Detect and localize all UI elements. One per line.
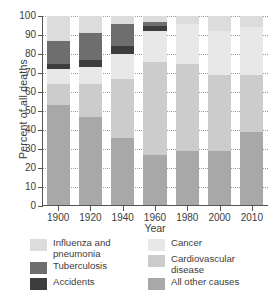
legend-label: All other causes [171, 277, 239, 288]
y-tick-label: 30 [6, 144, 36, 154]
legend-swatch [148, 255, 165, 267]
legend-swatch [148, 278, 165, 290]
legend-label: Cancer [171, 238, 202, 249]
legend-label: Tuberculosis [53, 261, 107, 272]
legend-item[interactable]: All other causes [148, 277, 268, 291]
y-tick-label: 20 [6, 163, 36, 173]
legend-item[interactable]: Accidents [30, 277, 148, 291]
legend-swatch [30, 239, 47, 251]
legend-item[interactable]: Influenza andpneumonia [30, 238, 148, 259]
legend-item[interactable]: Tuberculosis [30, 261, 148, 275]
legend-column-left: Influenza andpneumoniaTuberculosisAccide… [30, 238, 148, 293]
plot-frame [42, 16, 268, 206]
y-tick-label: 80 [6, 49, 36, 59]
y-tick-label: 90 [6, 30, 36, 40]
y-tick-label: 70 [6, 68, 36, 78]
y-tick-label: 100 [6, 11, 36, 21]
legend-item[interactable]: Cardiovasculardisease [148, 254, 268, 275]
y-tick-label: 50 [6, 106, 36, 116]
plot-area: 1009080706050403020100 [42, 16, 268, 206]
chart-legend: Influenza andpneumoniaTuberculosisAccide… [30, 238, 268, 293]
y-tick-label: 40 [6, 125, 36, 135]
legend-item[interactable]: Cancer [148, 238, 268, 252]
y-tick-label: 10 [6, 182, 36, 192]
legend-swatch [30, 278, 47, 290]
x-axis-ticks: 1900192019401960198020002010 [42, 207, 268, 223]
legend-label: Accidents [53, 277, 95, 288]
y-tick-label: 0 [6, 201, 36, 211]
legend-swatch [148, 239, 165, 251]
x-tick-mark [220, 206, 221, 211]
x-tick-mark [187, 206, 188, 211]
x-tick-mark [155, 206, 156, 211]
legend-column-right: CancerCardiovasculardiseaseAll other cau… [148, 238, 268, 293]
legend-label: Cardiovasculardisease [171, 254, 235, 275]
x-tick-mark [252, 206, 253, 211]
stacked-bar-chart-figure: Percent of all deaths 100908070605040302… [0, 0, 272, 294]
legend-swatch [30, 262, 47, 274]
legend-label: Influenza andpneumonia [53, 238, 111, 259]
x-tick-mark [58, 206, 59, 211]
x-axis-title: Year [42, 222, 268, 234]
x-tick-mark [90, 206, 91, 211]
x-tick-mark [123, 206, 124, 211]
y-tick-label: 60 [6, 87, 36, 97]
